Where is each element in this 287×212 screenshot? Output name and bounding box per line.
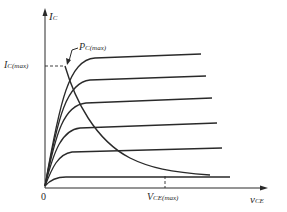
y-axis-label-sub: C bbox=[53, 14, 58, 22]
vce-max-label: VCE(max) bbox=[147, 192, 178, 202]
ic-max-label: IC(max) bbox=[4, 60, 28, 70]
collector-curves bbox=[45, 54, 230, 186]
pc-max-curve bbox=[65, 66, 210, 175]
pc-max-label-sub: C(max) bbox=[85, 44, 106, 52]
x-axis-label: vCE bbox=[250, 194, 264, 205]
y-axis-arrow-icon bbox=[43, 8, 48, 16]
curve-ib-5 bbox=[45, 76, 206, 186]
x-axis-arrow-icon bbox=[260, 186, 268, 191]
pc-max-leader-arrow-icon bbox=[66, 58, 71, 65]
curve-ib-2 bbox=[45, 148, 222, 186]
characteristics-diagram bbox=[0, 0, 287, 212]
origin-label: 0 bbox=[41, 192, 46, 202]
axes bbox=[45, 14, 262, 188]
pc-max-label: PC(max) bbox=[79, 42, 106, 52]
curve-ib-6 bbox=[45, 54, 201, 186]
y-axis-label: IC bbox=[49, 11, 57, 22]
curve-ib-1 bbox=[45, 177, 230, 186]
vce-max-label-sub: CE(max) bbox=[153, 194, 178, 202]
pc-max-leader bbox=[69, 48, 78, 61]
x-axis-label-sub: CE bbox=[255, 197, 264, 205]
ic-max-label-sub: C(max) bbox=[7, 62, 28, 70]
